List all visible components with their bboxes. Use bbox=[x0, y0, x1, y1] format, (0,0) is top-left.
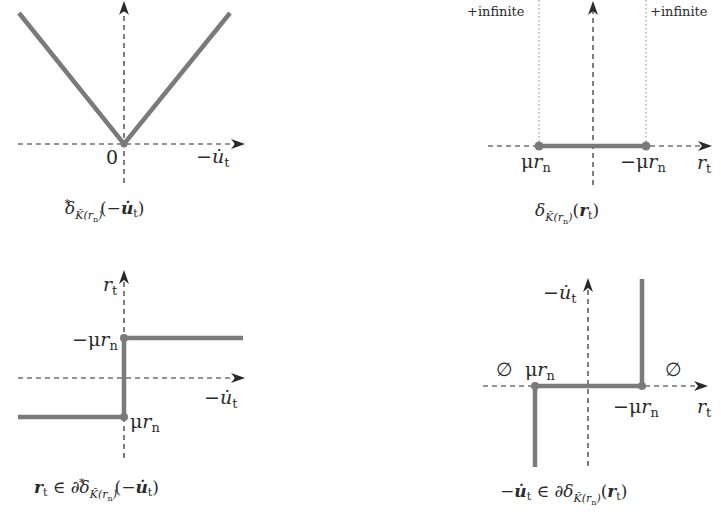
left-point-label: μrn bbox=[525, 360, 555, 383]
origin-label: 0 bbox=[106, 148, 118, 167]
origin-point bbox=[121, 141, 128, 148]
right-empty-label: ∅ bbox=[665, 360, 682, 379]
upper-level-label: −μrn bbox=[72, 330, 118, 353]
x-axis-label: −u̇t bbox=[204, 388, 237, 411]
diagram-canvas bbox=[0, 0, 721, 515]
caption-top-right: δK̃(rn)(rt) bbox=[535, 202, 599, 226]
right-point bbox=[638, 382, 646, 390]
upper-point bbox=[120, 334, 128, 342]
x-axis-label: −u̇t bbox=[196, 147, 229, 170]
right-infinite-label: +infinite bbox=[650, 5, 708, 18]
left-point-label: μrn bbox=[521, 152, 551, 175]
left-point bbox=[531, 382, 539, 390]
caption-bottom-right: −u̇t ∈ ∂δK̃(rn)(rt) bbox=[500, 483, 627, 507]
caption-bottom-left: rt ∈ ∂δK̃(rn)*(−u̇t) bbox=[34, 477, 159, 503]
right-point-label: −μrn bbox=[620, 152, 666, 175]
x-axis-label: rt bbox=[697, 153, 711, 176]
right-point-label: −μrn bbox=[613, 397, 659, 420]
y-axis-label: rt bbox=[103, 275, 117, 298]
caption-top-left: δK̃(rn)*(−u̇t) bbox=[65, 198, 144, 224]
left-empty-label: ∅ bbox=[496, 360, 513, 379]
x-axis-label: rt bbox=[697, 397, 711, 420]
lower-point bbox=[120, 413, 128, 421]
lower-level-label: μrn bbox=[130, 412, 160, 435]
left-infinite-label: +infinite bbox=[467, 5, 525, 18]
y-axis-label: −u̇t bbox=[543, 283, 576, 306]
